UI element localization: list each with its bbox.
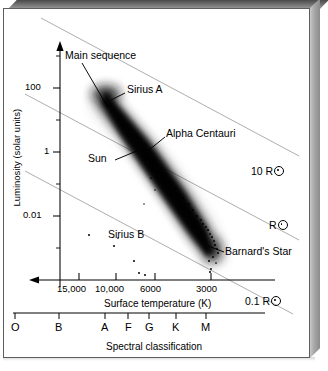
spectral-class-K: K [172, 322, 179, 333]
star-dot [154, 172, 156, 174]
star-dot [211, 236, 213, 238]
y-tick-label-100: 100 [25, 82, 41, 92]
y-tick-label-0.01: 0.01 [23, 210, 42, 220]
y-tick-label-1: 1 [44, 146, 49, 156]
white-dwarf-dot [88, 234, 90, 236]
star-dot [200, 219, 202, 221]
white-dwarf-dot [133, 260, 135, 262]
star-dot [182, 197, 184, 199]
star-dot [153, 159, 155, 161]
plot-area: 100 1 0.01 Luminosity (solar units) 15,0… [3, 8, 310, 358]
star-dot [202, 223, 204, 225]
star-dot [143, 203, 145, 205]
x-tick-label-6000: 6000 [140, 284, 161, 294]
radius-label-1Rsun: R [269, 220, 288, 231]
white-dwarf-points [88, 234, 211, 276]
star-dot [175, 187, 177, 189]
annotation-sirius-b: Sirius B [108, 229, 144, 240]
star-dot [214, 244, 216, 246]
radius-label-1Rsun-text: R [269, 219, 277, 231]
leader-main-sequence [82, 63, 107, 106]
star-dot [213, 240, 215, 242]
annotation-sun: Sun [88, 153, 107, 164]
y-axis [53, 41, 64, 287]
annotation-barnards-star: Barnard's Star [225, 246, 292, 257]
white-dwarf-dot [138, 272, 140, 274]
star-dot [208, 260, 210, 262]
star-dot [212, 256, 214, 258]
white-dwarf-dot [209, 271, 211, 273]
sun-symbol-icon [278, 220, 288, 230]
white-dwarf-dot [113, 245, 115, 247]
spectral-class-F: F [125, 322, 132, 333]
star-dot [217, 252, 219, 254]
radius-label-10Rsun-text: 10 R [251, 165, 273, 177]
spectral-class-B: B [55, 322, 62, 333]
star-dot [192, 209, 194, 211]
star-dot [128, 129, 130, 131]
star-dot [161, 187, 163, 189]
star-dot [165, 175, 167, 177]
radius-label-10Rsun: 10 R [251, 166, 284, 177]
frame-bevel-right [310, 0, 320, 358]
x-tick-label-3000: 3000 [196, 284, 217, 294]
star-dot [188, 203, 190, 205]
x-axis-title: Surface temperature (K) [104, 299, 211, 309]
spectral-axis [13, 313, 265, 319]
leader-alpha-centauri [149, 137, 165, 150]
star-dot [205, 226, 207, 228]
radius-label-0.1Rsun-text: 0.1 R [245, 295, 270, 307]
sun-symbol-icon [274, 166, 284, 176]
x-axis [29, 273, 275, 284]
spectral-class-O: O [11, 322, 20, 333]
annotation-main-sequence: Main sequence [65, 50, 136, 61]
y-axis-title: Luminosity (solar units) [12, 98, 22, 218]
spectral-class-M: M [201, 322, 210, 333]
star-dot [150, 177, 152, 179]
annotation-alpha-centauri: Alpha Centauri [166, 128, 235, 139]
annotation-sirius-a: Sirius A [127, 84, 163, 95]
white-dwarf-dot [144, 274, 146, 276]
star-dot [196, 215, 198, 217]
radius-label-0.1Rsun: 0.1 R [245, 296, 281, 307]
star-dot [154, 189, 156, 191]
star-dot [210, 268, 212, 270]
spectral-axis-title: Spectral classification [106, 342, 202, 352]
sun-symbol-icon [271, 296, 281, 306]
star-dot [215, 262, 217, 264]
spectral-class-G: G [145, 322, 154, 333]
spectral-class-A: A [101, 322, 108, 333]
star-dot [207, 229, 209, 231]
x-tick-label-15000: 15,000 [57, 284, 86, 294]
x-tick-label-10000: 10,000 [95, 284, 124, 294]
hr-diagram-figure: 100 1 0.01 Luminosity (solar units) 15,0… [0, 0, 328, 371]
star-dot [209, 233, 211, 235]
